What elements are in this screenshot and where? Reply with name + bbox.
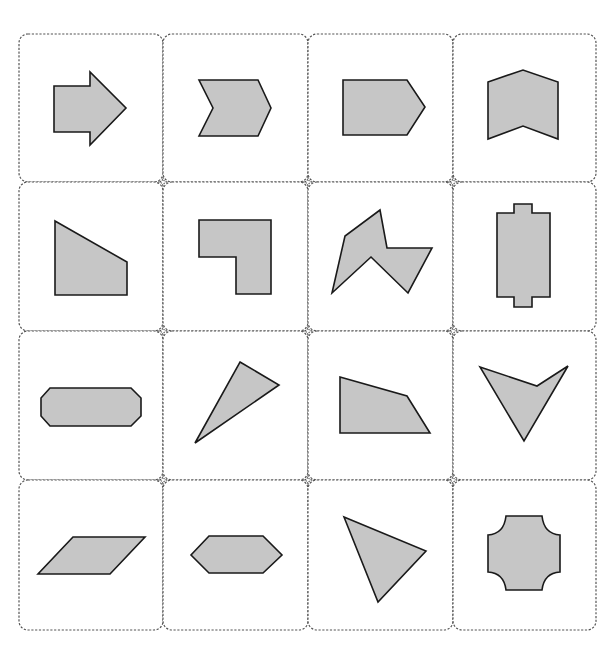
hexagon-elongated-icon xyxy=(191,536,282,573)
octagon-elongated-icon xyxy=(41,388,141,426)
pentagon-pointed-right-icon xyxy=(343,80,425,135)
shape-grid xyxy=(0,0,616,646)
tabbed-rectangle-vertical-icon xyxy=(497,204,550,307)
